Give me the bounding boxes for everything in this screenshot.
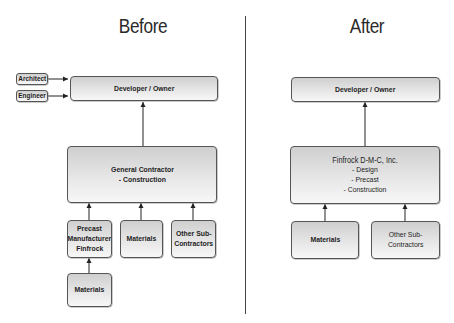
finfrock-box: Finfrock D-M-C, Inc. - Design - Precast … — [290, 146, 440, 204]
before-materials-label: Materials — [127, 234, 157, 244]
before-materials-bottom-label: Materials — [75, 285, 105, 295]
after-developer-owner-label: Developer / Owner — [335, 85, 395, 95]
general-contractor-box: General Contractor - Construction — [67, 146, 217, 203]
finfrock-line-1: Finfrock D-M-C, Inc. — [332, 155, 397, 165]
architect-box: Architect — [16, 73, 48, 85]
engineer-box: Engineer — [16, 90, 48, 102]
after-developer-owner-box: Developer / Owner — [291, 77, 440, 102]
before-materials-bottom-box: Materials — [67, 273, 112, 307]
before-developer-owner-box: Developer / Owner — [70, 76, 218, 101]
after-other-sub-box: Other Sub- Contractors — [371, 221, 440, 259]
gc-line-1: General Contractor — [111, 165, 174, 175]
finfrock-line-4: - Construction — [344, 185, 387, 195]
precast-line-3: Finfrock — [76, 244, 103, 254]
after-materials-box: Materials — [291, 221, 359, 259]
after-other-sub-line-1: Other Sub- — [389, 230, 423, 240]
before-other-sub-line-2: Contractors — [174, 239, 213, 249]
before-developer-owner-label: Developer / Owner — [114, 84, 174, 94]
finfrock-line-3: - Precast — [351, 175, 379, 185]
engineer-label: Engineer — [18, 91, 46, 101]
after-materials-label: Materials — [310, 235, 340, 245]
before-materials-box: Materials — [120, 220, 163, 258]
precast-line-2: Manufacturer — [68, 234, 112, 244]
gc-line-2: - Construction — [118, 175, 165, 185]
precast-manufacturer-box: Precast Manufacturer Finfrock — [67, 220, 112, 258]
precast-line-1: Precast — [77, 224, 102, 234]
before-other-sub-box: Other Sub- Contractors — [171, 220, 216, 258]
before-other-sub-line-1: Other Sub- — [176, 229, 212, 239]
architect-label: Architect — [18, 74, 46, 84]
after-other-sub-line-2: Contractors — [388, 240, 424, 250]
finfrock-line-2: - Design — [352, 165, 378, 175]
